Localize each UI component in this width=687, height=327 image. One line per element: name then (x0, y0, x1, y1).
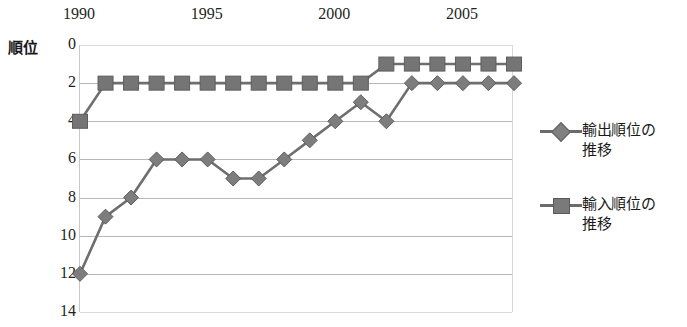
x-axis-tick-labels: 1990199520002005 (0, 0, 687, 30)
marker-square (175, 76, 190, 90)
chart-legend: 輸出順位の 推移輸入順位の 推移 (540, 120, 687, 260)
y-tick-label: 2 (16, 74, 76, 90)
x-tick-label: 1995 (191, 5, 223, 23)
gridline (80, 312, 512, 313)
marker-diamond (149, 152, 164, 167)
x-tick-label: 2005 (446, 5, 478, 23)
legend-label: 輸出順位の 推移 (582, 120, 656, 160)
legend-marker-diamond-icon (540, 122, 582, 140)
y-tick-label: 4 (16, 112, 76, 128)
series-line (80, 83, 514, 274)
marker-diamond (175, 152, 190, 167)
y-tick-label: 6 (16, 150, 76, 166)
series-import (73, 57, 522, 128)
legend-item[interactable]: 輸出順位の 推移 (540, 120, 656, 160)
y-tick-label: 14 (16, 303, 76, 319)
legend-diamond-icon (551, 122, 571, 142)
marker-square (455, 57, 470, 71)
marker-diamond (404, 76, 419, 91)
marker-square (124, 76, 139, 90)
marker-square (251, 76, 266, 90)
marker-diamond (430, 76, 445, 91)
rank-trend-chart: 1990199520002005 順位 02468101214 輸出順位の 推移… (0, 0, 687, 327)
x-tick-label: 2000 (318, 5, 350, 23)
marker-square (379, 57, 394, 71)
legend-marker-square-icon (540, 196, 582, 214)
marker-square (507, 57, 522, 71)
y-tick-label: 10 (16, 227, 76, 243)
series-layer (80, 45, 514, 312)
y-tick-label: 0 (16, 36, 76, 52)
marker-square (149, 76, 164, 90)
marker-square (404, 57, 419, 71)
marker-square (277, 76, 292, 90)
y-axis-tick-labels: 02468101214 (16, 0, 76, 327)
marker-square (200, 76, 215, 90)
marker-square (430, 57, 445, 71)
marker-square (226, 76, 241, 90)
plot-area (79, 45, 513, 312)
marker-square (481, 57, 496, 71)
marker-square (328, 76, 343, 90)
legend-item[interactable]: 輸入順位の 推移 (540, 194, 656, 234)
marker-diamond (455, 76, 470, 91)
marker-square (353, 76, 368, 90)
marker-diamond (481, 76, 496, 91)
marker-square (98, 76, 113, 90)
series-line (80, 64, 514, 121)
legend-label: 輸入順位の 推移 (582, 194, 656, 234)
series-export (73, 76, 522, 282)
marker-square (302, 76, 317, 90)
marker-diamond (507, 76, 522, 91)
legend-square-icon (553, 198, 570, 214)
y-tick-label: 8 (16, 189, 76, 205)
y-tick-label: 12 (16, 265, 76, 281)
marker-square (73, 114, 88, 128)
